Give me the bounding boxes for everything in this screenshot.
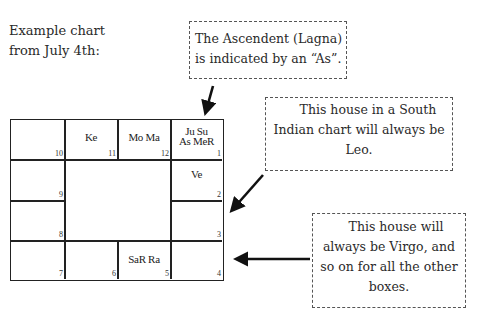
pointer-arrows bbox=[0, 0, 493, 322]
ascendant-arrow-icon bbox=[206, 86, 213, 111]
leo-arrow-icon bbox=[233, 175, 263, 209]
